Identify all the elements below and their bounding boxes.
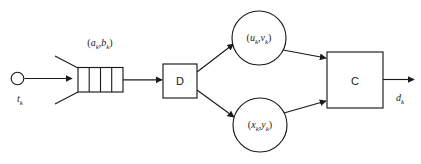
output-signal-label: dk <box>396 93 404 103</box>
queue-funnel-lower <box>55 92 78 104</box>
circle-upper-label: (uk,vk) <box>247 33 272 43</box>
source-signal-label: tk <box>17 94 23 104</box>
source-node-circle <box>11 72 24 85</box>
queue-label: (ak,bk) <box>87 38 112 48</box>
queue-funnel-upper <box>55 56 78 68</box>
block-d-label: D <box>176 76 184 87</box>
block-c-label: C <box>351 76 359 87</box>
arrow-block-d-to-circle-lower <box>197 90 234 117</box>
arrow-circle-lower-to-block-c <box>284 101 326 113</box>
block-diagram: tk (ak,bk) D (uk,vk) (xk,yk) C dk <box>0 0 421 164</box>
circle-lower-label: (xk,yk) <box>248 120 272 130</box>
arrow-block-d-to-circle-upper <box>197 44 234 72</box>
arrow-circle-upper-to-block-c <box>283 50 326 58</box>
